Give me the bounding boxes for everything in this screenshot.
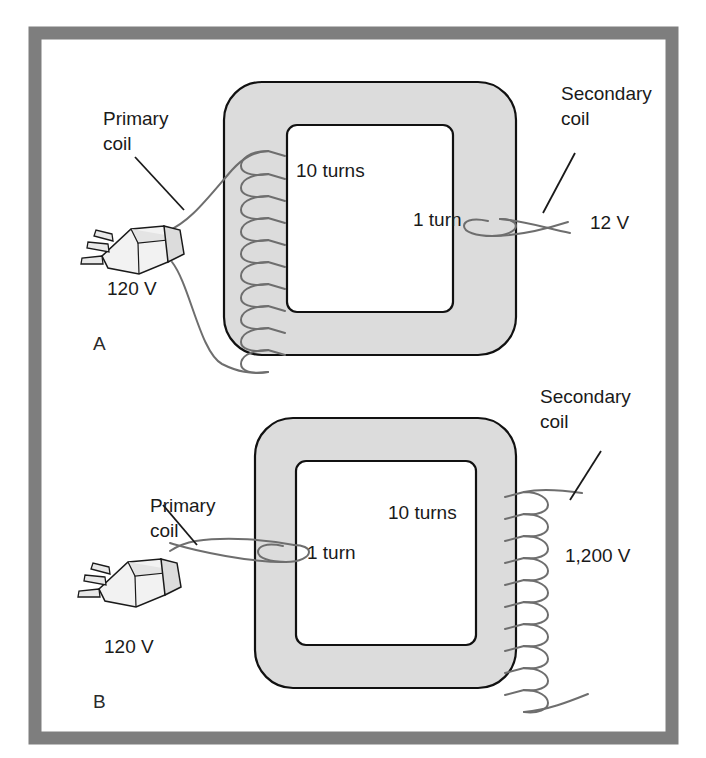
transformer-diagram-figure: Primary coil 10 turns 120 V Secondary co… (0, 0, 706, 758)
primary-coil-label-a-line2: coil (103, 133, 132, 154)
panel-label-b: B (93, 691, 106, 712)
secondary-coil-label-a-line1: Secondary (561, 83, 652, 104)
secondary-turns-label-a: 1 turn (413, 209, 462, 230)
primary-turns-label-b: 1 turn (307, 542, 356, 563)
primary-coil-label-a-line1: Primary (103, 108, 169, 129)
primary-voltage-label-b: 120 V (104, 636, 154, 657)
secondary-turns-label-b: 10 turns (388, 502, 457, 523)
secondary-coil-label-a-line2: coil (561, 108, 590, 129)
secondary-coil-label-b-line2: coil (540, 411, 569, 432)
primary-voltage-label-a: 120 V (107, 278, 157, 299)
secondary-coil-label-b-line1: Secondary (540, 386, 631, 407)
panel-label-a: A (93, 333, 106, 354)
primary-coil-label-b-line2: coil (150, 520, 179, 541)
primary-coil-label-b-line1: Primary (150, 495, 216, 516)
secondary-voltage-label-b: 1,200 V (565, 545, 631, 566)
secondary-voltage-label-a: 12 V (590, 212, 629, 233)
primary-turns-label-a: 10 turns (296, 160, 365, 181)
